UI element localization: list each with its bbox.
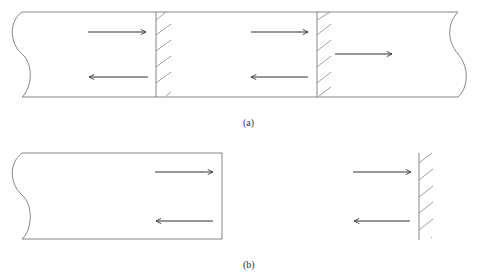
medium-a-left-wavy-cut xyxy=(12,12,30,97)
panel-a-caption: (a) xyxy=(243,117,254,128)
isolated-hatched-wall xyxy=(419,153,433,240)
panel-a xyxy=(12,12,466,97)
boundary-2-hatched-wall xyxy=(317,12,331,97)
medium-b-left-wavy-cut xyxy=(12,153,30,239)
panel-b xyxy=(12,153,433,240)
panel-b-caption: (b) xyxy=(243,259,255,270)
boundary-1-hatched-wall xyxy=(156,12,171,97)
medium-a-right-wavy-cut xyxy=(450,12,467,97)
diagram-canvas xyxy=(0,0,479,276)
